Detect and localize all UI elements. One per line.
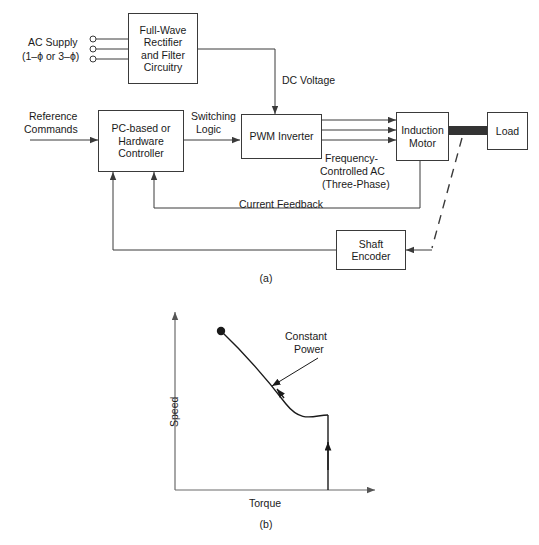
rectifier-line-4: Circuitry (138, 61, 189, 74)
encoder-line-1: Shaft (349, 238, 392, 251)
block-shaft-encoder[interactable]: Shaft Encoder (336, 230, 406, 270)
block-load[interactable]: Load (487, 112, 528, 150)
reference-commands-label-line1: Reference (29, 110, 77, 123)
block-pwm-inverter[interactable]: PWM Inverter (241, 114, 322, 159)
chart-x-axis-label: Torque (249, 497, 281, 510)
rectifier-line-3: and Filter (138, 49, 189, 62)
pwm-inverter-label: PWM Inverter (247, 130, 315, 143)
constant-power-annotation-line2: Power (294, 343, 324, 356)
rectifier-line-2: Rectifier (138, 36, 189, 49)
frequency-label-line2: Controlled AC (320, 165, 385, 178)
curve-start-marker (217, 327, 225, 335)
constant-power-annotation-line1: Constant (285, 330, 327, 343)
block-controller[interactable]: PC-based or Hardware Controller (98, 110, 184, 172)
caption-b: (b) (248, 518, 284, 530)
ac-supply-label-line2: (1–ϕ or 3–ϕ) (22, 50, 79, 63)
block-full-wave-rectifier[interactable]: Full-Wave Rectifier and Filter Circuitry (128, 13, 198, 84)
current-feedback-label: Current Feedback (239, 198, 323, 211)
motor-shaft (449, 126, 487, 135)
frequency-label-line3: (Three-Phase) (322, 178, 390, 191)
figure-container: Full-Wave Rectifier and Filter Circuitry… (0, 0, 539, 545)
motor-line-2: Motor (399, 137, 446, 150)
dc-voltage-label: DC Voltage (282, 74, 335, 87)
dc-voltage-connector (198, 49, 275, 114)
frequency-label-line1: Frequency- (325, 152, 378, 165)
ac-supply-label-line1: AC Supply (28, 36, 78, 49)
caption-a: (a) (248, 272, 284, 284)
constant-power-leader-line (272, 358, 318, 386)
load-label: Load (494, 125, 521, 138)
block-induction-motor[interactable]: Induction Motor (396, 112, 449, 161)
controller-line-1: PC-based or (110, 122, 173, 135)
switching-logic-label-line1: Switching (191, 110, 236, 123)
rectifier-line-1: Full-Wave (138, 24, 189, 37)
encoder-line-2: Encoder (349, 250, 392, 263)
chart-y-axis-label: Speed (168, 397, 180, 427)
encoder-feedback-connector (113, 172, 336, 250)
three-phase-connector (322, 120, 396, 140)
controller-line-3: Controller (110, 147, 173, 160)
controller-line-2: Hardware (110, 135, 173, 148)
switching-logic-label-line2: Logic (196, 123, 221, 136)
ac-supply-terminals (90, 36, 128, 62)
motor-line-1: Induction (399, 124, 446, 137)
reference-commands-label-line2: Commands (24, 123, 78, 136)
chart-axes (175, 312, 375, 490)
